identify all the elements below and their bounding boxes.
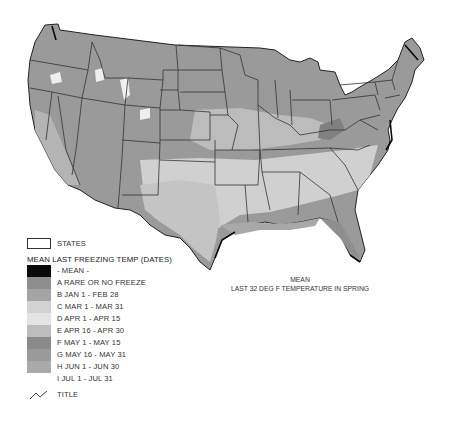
swatch-b: [27, 289, 51, 301]
legend-label: - MEAN -: [57, 266, 89, 275]
legend-title-line-label: TITLE: [57, 390, 78, 399]
legend-label: B JAN 1 - FEB 28: [57, 290, 119, 299]
caption-line-2: LAST 32 DEG F TEMPERATURE IN SPRING: [200, 284, 400, 293]
swatch-mean: [27, 265, 51, 277]
legend-label: C MAR 1 - MAR 31: [57, 302, 124, 311]
legend-states-label: STATES: [57, 239, 86, 248]
title-line-icon: [27, 389, 51, 401]
caption-line-1: MEAN: [200, 275, 400, 284]
swatch-g: [27, 349, 51, 361]
states-swatch: [27, 238, 51, 249]
legend-label: F MAY 1 - MAY 15: [57, 338, 121, 347]
legend-label: G MAY 16 - MAY 31: [57, 350, 126, 359]
swatch-f: [27, 337, 51, 349]
swatch-h: [27, 361, 51, 373]
swatch-i: [27, 373, 51, 385]
swatch-c: [27, 301, 51, 313]
legend-label: E APR 16 - APR 30: [57, 326, 124, 335]
legend-title: MEAN LAST FREEZING TEMP (DATES): [27, 255, 172, 264]
swatch-e: [27, 325, 51, 337]
zone-rockies-white-4: [140, 108, 150, 120]
legend-label: D APR 1 - APR 15: [57, 314, 120, 323]
swatch-d: [27, 313, 51, 325]
swatch-a: [27, 277, 51, 289]
legend-label: A RARE OR NO FREEZE: [57, 278, 146, 287]
legend-label: H JUN 1 - JUN 30: [57, 362, 119, 371]
legend-label: I JUL 1 - JUL 31: [57, 374, 113, 383]
map-caption: MEAN LAST 32 DEG F TEMPERATURE IN SPRING: [200, 275, 400, 293]
